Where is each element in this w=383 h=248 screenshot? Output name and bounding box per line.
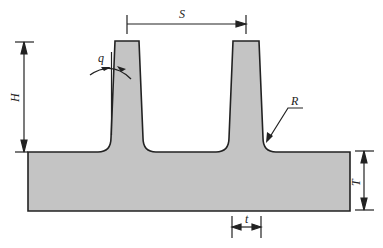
fin-diagram: S H q R T t <box>0 0 383 248</box>
label-s: S <box>179 7 185 21</box>
label-r: R <box>290 94 299 108</box>
label-t-fin: t <box>245 212 249 226</box>
dimension-s <box>127 15 246 34</box>
label-q: q <box>98 51 104 65</box>
fin-body-shape <box>28 41 350 211</box>
label-t-base: T <box>349 178 363 186</box>
dimension-r <box>266 108 303 143</box>
label-h: H <box>8 92 22 103</box>
